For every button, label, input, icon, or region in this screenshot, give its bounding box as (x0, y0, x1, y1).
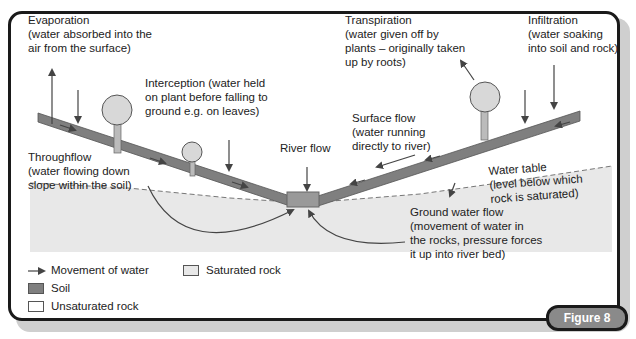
river-block (287, 192, 319, 207)
label-water-table: Water table(level below whichrock is sat… (488, 157, 584, 205)
label-evaporation: Evaporation(water absorbed into theair f… (28, 13, 152, 55)
unsaturated-rock-swatch (28, 301, 44, 312)
label-throughflow: Throughflow(water flowing downslope with… (28, 150, 132, 192)
label-infiltration: Infiltration(water soakinginto soil and … (528, 13, 618, 55)
legend-movement-of-water: Movement of water (51, 264, 149, 276)
legend-unsaturated-rock: Unsaturated rock (28, 300, 139, 312)
figure-label-tab: Figure 8 (546, 305, 628, 331)
label-river-flow: River flow (280, 141, 330, 155)
soil-swatch (28, 283, 44, 294)
label-surface-flow: Surface flow(water runningdirectly to ri… (352, 111, 431, 153)
label-ground-water-flow: Ground water flow(movement of water inth… (410, 205, 542, 261)
tree-right (470, 82, 500, 140)
label-transpiration: Transpiration(water given off byplants –… (345, 13, 465, 69)
saturated-rock-swatch (183, 265, 199, 276)
legend-soil: Soil (28, 282, 70, 294)
label-interception: Interception (water heldon plant before … (145, 76, 268, 118)
legend-saturated-rock: Saturated rock (183, 264, 281, 276)
